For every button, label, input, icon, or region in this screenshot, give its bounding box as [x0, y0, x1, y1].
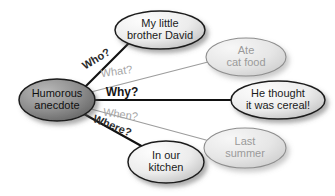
node-label-line: My little	[141, 17, 178, 29]
node-label-line: cat food	[226, 56, 265, 68]
concept-map-svg: Atecat foodLastsummerMy littlebrother Da…	[0, 0, 335, 196]
node-label-line: summer	[225, 147, 265, 159]
node-center[interactable]: Humorousanecdote	[19, 79, 95, 121]
node-he-thought-it-was-cereal[interactable]: He thoughtit was cereal!	[231, 81, 325, 119]
node-label-line: Humorous	[32, 87, 83, 99]
node-label-line: kitchen	[149, 161, 184, 173]
node-label-line: Last	[235, 135, 256, 147]
node-label-line: it was cereal!	[246, 99, 310, 111]
node-label-line: anecdote	[34, 99, 79, 111]
node-layer: Atecat foodLastsummerMy littlebrother Da…	[19, 11, 325, 183]
node-label-line: Ate	[238, 44, 255, 56]
edge-why-label: Why?	[106, 85, 139, 99]
node-label-line: In our	[152, 149, 180, 161]
node-ate-cat-food[interactable]: Atecat food	[206, 38, 286, 76]
node-in-our-kitchen[interactable]: In ourkitchen	[128, 141, 204, 183]
concept-map-canvas: Atecat foodLastsummerMy littlebrother Da…	[0, 0, 335, 196]
node-my-little-brother-david[interactable]: My littlebrother David	[115, 11, 205, 49]
node-label-line: He thought	[251, 87, 305, 99]
node-last-summer[interactable]: Lastsummer	[204, 128, 286, 168]
edge-what-label: What?	[100, 63, 133, 79]
node-label-line: brother David	[127, 29, 193, 41]
